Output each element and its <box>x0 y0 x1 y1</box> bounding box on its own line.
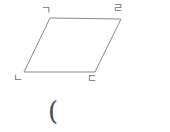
vertex-label-bottom-right: ㄷ <box>87 73 97 84</box>
vertex-label-top-left: ㄱ <box>41 5 51 16</box>
answer-open-paren: ( <box>48 98 58 124</box>
vertex-label-top-right: ㄹ <box>113 3 123 14</box>
parallelogram-figure <box>0 0 170 132</box>
vertex-label-bottom-left: ㄴ <box>13 73 23 84</box>
parallelogram-shape <box>24 18 121 72</box>
figure-canvas: ㄱ ㄹ ㄴ ㄷ ( <box>0 0 170 132</box>
